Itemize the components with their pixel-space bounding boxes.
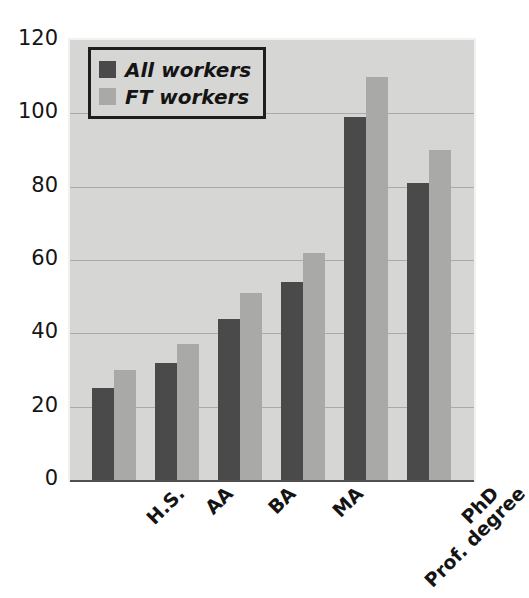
y-axis: 0 20 40 60 80 100 120 — [0, 38, 62, 478]
y-tick-label: 80 — [31, 173, 58, 197]
y-tick-label: 0 — [45, 466, 58, 490]
x-tick-label-hs: H.S. — [142, 482, 189, 529]
bar-ft-workers-ba — [240, 293, 262, 480]
bar-group-phd — [407, 40, 451, 480]
bar-all-workers-phd — [407, 183, 429, 480]
y-tick-label: 120 — [18, 26, 58, 50]
x-tick-label-ba: BA — [264, 482, 300, 518]
bar-ft-workers-aa — [177, 344, 199, 480]
bar-all-workers-hs — [92, 388, 114, 480]
bar-ft-workers-phd — [429, 150, 451, 480]
bar-all-workers-aa — [155, 363, 177, 480]
y-tick-label: 20 — [31, 393, 58, 417]
bar-group-prof-degree — [344, 40, 388, 480]
legend-label: FT workers — [125, 85, 249, 109]
bar-ft-workers-prof-degree — [366, 77, 388, 480]
y-tick-label: 40 — [31, 319, 58, 343]
bar-group-ma — [281, 40, 325, 480]
x-tick-label-ma: MA — [328, 482, 367, 521]
bar-ft-workers-hs — [114, 370, 136, 480]
legend-entry-ft-workers: FT workers — [99, 83, 251, 110]
legend-label: All workers — [125, 58, 251, 82]
legend: All workers FT workers — [88, 47, 266, 119]
x-tick-label-aa: AA — [201, 482, 237, 518]
y-tick-label: 100 — [18, 99, 58, 123]
x-axis: H.S. AA BA MA Prof. degree PhD — [68, 482, 472, 594]
bar-all-workers-ba — [218, 319, 240, 480]
bar-ft-workers-ma — [303, 253, 325, 480]
y-tick-label: 60 — [31, 246, 58, 270]
legend-swatch-icon — [99, 88, 116, 105]
bar-all-workers-prof-degree — [344, 117, 366, 480]
bar-all-workers-ma — [281, 282, 303, 480]
legend-entry-all-workers: All workers — [99, 56, 251, 83]
legend-swatch-icon — [99, 61, 116, 78]
